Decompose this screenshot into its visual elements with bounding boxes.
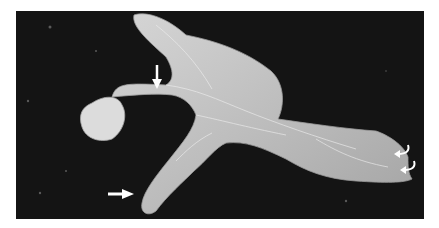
specimen-illustration	[16, 11, 424, 219]
specimen-photo	[16, 11, 424, 219]
